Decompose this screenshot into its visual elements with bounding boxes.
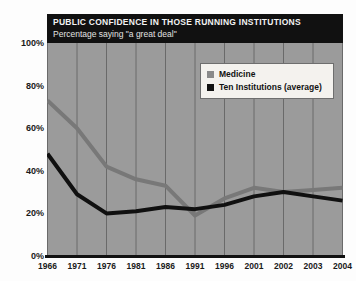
y-tick-label: 20% bbox=[2, 208, 44, 218]
y-tick-label: 80% bbox=[2, 81, 44, 91]
y-tick-label: 40% bbox=[2, 166, 44, 176]
chart-subtitle: Percentage saying "a great deal" bbox=[53, 28, 343, 40]
x-tick-label: 1976 bbox=[92, 261, 122, 272]
legend-label-ten-institutions: Ten Institutions (average) bbox=[219, 82, 322, 92]
legend-item: Medicine bbox=[207, 68, 328, 80]
y-tick-label: 60% bbox=[2, 123, 44, 133]
legend-swatch-ten-institutions bbox=[207, 84, 214, 91]
x-tick-label: 1971 bbox=[62, 261, 92, 272]
x-tick-label: 1986 bbox=[151, 261, 181, 272]
x-tick-label: 1991 bbox=[180, 261, 210, 272]
x-tick-label: 2003 bbox=[298, 261, 328, 272]
y-tick-label: 100% bbox=[2, 38, 44, 48]
chart-figure: PUBLIC CONFIDENCE IN THOSE RUNNING INSTI… bbox=[0, 0, 356, 281]
x-tick-label: 2002 bbox=[269, 261, 299, 272]
legend-label-medicine: Medicine bbox=[219, 69, 255, 79]
page-title: PUBLIC CONFIDENCE IN THOSE RUNNING INSTI… bbox=[53, 17, 343, 28]
y-tick-label: 0% bbox=[2, 251, 44, 261]
x-axis-line bbox=[45, 255, 345, 258]
chart-legend: Medicine Ten Institutions (average) bbox=[200, 63, 334, 99]
y-axis-labels: 0%20%40%60%80%100% bbox=[0, 0, 44, 281]
x-tick-label: 1966 bbox=[33, 261, 63, 272]
chart-title-bar: PUBLIC CONFIDENCE IN THOSE RUNNING INSTI… bbox=[47, 14, 343, 43]
x-tick-label: 1981 bbox=[121, 261, 151, 272]
x-tick-label: 1996 bbox=[210, 261, 240, 272]
legend-item: Ten Institutions (average) bbox=[207, 81, 328, 93]
x-axis-labels: 1966197119761981198619911996200120022003… bbox=[47, 261, 343, 277]
x-tick-label: 2004 bbox=[328, 261, 356, 272]
legend-swatch-medicine bbox=[207, 71, 214, 78]
x-tick-label: 2001 bbox=[239, 261, 269, 272]
